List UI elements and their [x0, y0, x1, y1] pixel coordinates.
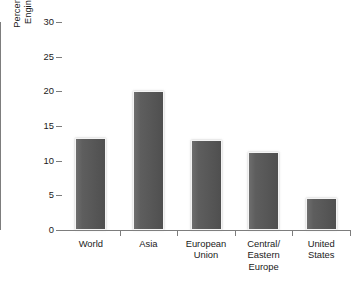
y-axis-tick — [56, 22, 62, 23]
x-axis-category-label: EuropeanUnion — [177, 238, 235, 261]
y-axis-tick — [56, 126, 62, 127]
y-axis-tick-label: 15 — [10, 120, 54, 131]
bar — [248, 152, 279, 230]
y-axis-tick-label: 20 — [10, 85, 54, 96]
x-axis-category-label-line: European — [177, 238, 235, 249]
x-axis-line — [62, 230, 351, 231]
y-axis-tick — [56, 57, 62, 58]
x-axis-category-label-line: World — [62, 238, 120, 249]
x-axis-category-label: World — [62, 238, 120, 249]
x-axis-tick — [350, 231, 351, 236]
bar-chart: Percentage of First University Degrees i… — [0, 0, 364, 286]
y-axis-tick-label: 25 — [10, 51, 54, 62]
x-axis-category-label-line: Union — [177, 249, 235, 260]
x-axis-tick — [235, 231, 236, 236]
x-axis-category-label-line: Europe — [235, 261, 293, 272]
x-axis-category-label-line: Eastern — [235, 249, 293, 260]
x-axis-category-label-line: Central/ — [235, 238, 293, 249]
x-axis-category-label: Asia — [120, 238, 178, 249]
x-axis-tick — [120, 231, 121, 236]
y-axis-tick-label: 5 — [10, 189, 54, 200]
bar — [191, 140, 222, 230]
x-axis-category-label-line: Asia — [120, 238, 178, 249]
y-axis-tick — [56, 161, 62, 162]
y-axis-line — [0, 22, 1, 230]
x-axis-tick — [292, 231, 293, 236]
x-axis-tick — [177, 231, 178, 236]
bar — [306, 198, 337, 230]
y-axis-tick — [56, 91, 62, 92]
x-axis-category-label-line: United — [292, 238, 350, 249]
y-axis-tick-label: 10 — [10, 155, 54, 166]
y-axis-tick — [56, 230, 62, 231]
x-axis-category-label: UnitedStates — [292, 238, 350, 261]
bar — [75, 138, 106, 230]
bar — [133, 91, 164, 230]
y-axis-tick — [56, 195, 62, 196]
x-axis-category-label: Central/EasternEurope — [235, 238, 293, 272]
y-axis-tick-label: 30 — [10, 16, 54, 27]
y-axis-tick-label: 0 — [10, 224, 54, 235]
x-axis-category-label-line: States — [292, 249, 350, 260]
